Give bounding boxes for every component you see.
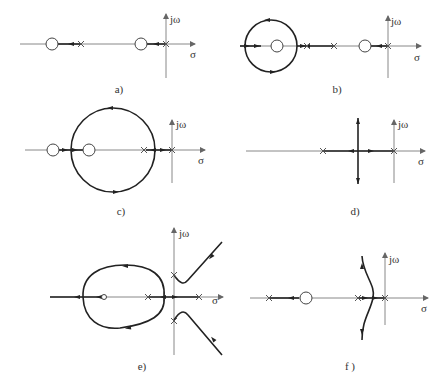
imag-axis-label: jω: [390, 15, 401, 27]
real-axis-label: σ: [212, 294, 218, 306]
caption-f: f ): [345, 360, 355, 373]
real-axis-label: σ: [421, 302, 427, 314]
zero-marker: [135, 38, 147, 50]
caption-c: c): [117, 205, 126, 218]
real-axis-label: σ: [418, 155, 424, 167]
imag-axis-label: jω: [175, 118, 186, 130]
imag-axis-label: jω: [388, 253, 399, 265]
caption-b: b): [332, 83, 342, 96]
panel-e: jω σ e): [50, 227, 223, 373]
panel-c: jω σ c): [25, 106, 205, 218]
panel-a: jω σ a): [20, 13, 196, 96]
root-locus-figure: jω σ a) jω σ b): [0, 0, 448, 383]
caption-d: d): [350, 205, 360, 218]
caption-e: e): [138, 360, 147, 373]
imag-axis-label: jω: [169, 13, 180, 25]
imag-axis-label: jω: [178, 227, 189, 239]
real-axis-label: σ: [414, 51, 420, 63]
real-axis-label: σ: [198, 154, 204, 166]
panel-f: jω σ f ): [250, 253, 428, 373]
imag-axis-label: jω: [397, 118, 408, 130]
panel-d: jω σ d): [246, 118, 425, 218]
real-axis-label: σ: [190, 48, 196, 60]
panel-b: jω σ b): [240, 15, 421, 96]
caption-a: a): [115, 83, 124, 96]
zero-marker: [46, 38, 58, 50]
